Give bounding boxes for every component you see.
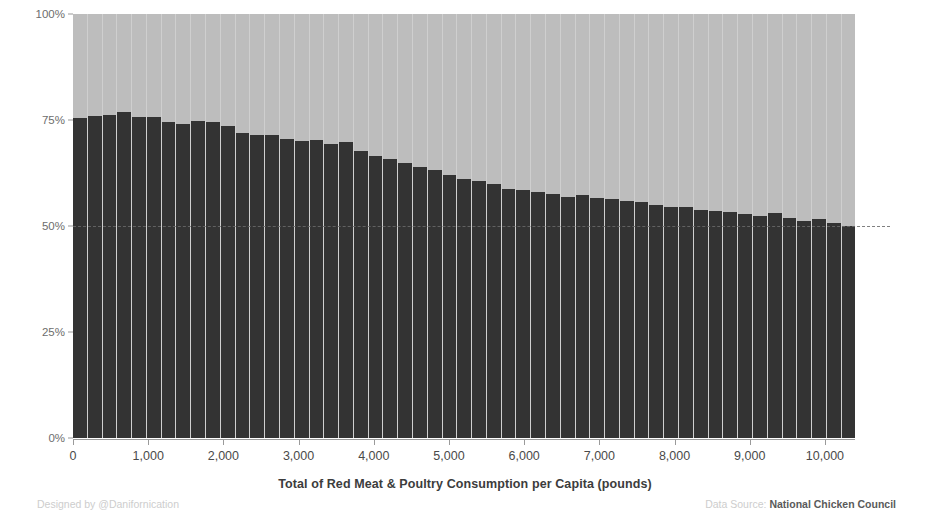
bar <box>162 122 176 438</box>
bar <box>797 221 811 438</box>
bar <box>605 199 619 438</box>
data-source-label: Data Source: <box>705 498 766 510</box>
bar <box>295 141 309 438</box>
bar <box>280 139 294 438</box>
x-axis-tick-label: 1,000 <box>133 449 164 463</box>
bar <box>709 211 723 438</box>
bar <box>191 121 205 438</box>
x-axis-tick-mark <box>223 439 224 445</box>
bar <box>649 205 663 438</box>
chart-container: 0%25%50%75%100% 01,0002,0003,0004,0005,0… <box>0 0 930 523</box>
y-axis: 0%25%50%75%100% <box>0 0 73 452</box>
bar <box>221 126 235 438</box>
x-axis-tick-mark <box>148 439 149 445</box>
x-axis-tick-label: 4,000 <box>358 449 389 463</box>
bar <box>546 194 560 438</box>
bar <box>664 207 678 439</box>
bar <box>487 184 501 438</box>
bar <box>753 216 767 438</box>
bar <box>383 159 397 438</box>
bar <box>531 192 545 438</box>
bar <box>132 117 146 438</box>
x-axis-line <box>73 439 855 440</box>
x-axis-tick-label: 2,000 <box>208 449 239 463</box>
bar <box>723 212 737 438</box>
bar <box>768 213 782 438</box>
x-axis-tick-mark <box>524 439 525 445</box>
bar <box>472 181 486 438</box>
data-source-name: National Chicken Council <box>769 498 896 510</box>
x-axis-title: Total of Red Meat & Poultry Consumption … <box>0 477 930 491</box>
bar <box>620 201 634 438</box>
bar <box>590 198 604 438</box>
bar <box>206 122 220 438</box>
bar <box>147 117 161 438</box>
bar <box>576 195 590 438</box>
bar <box>73 118 87 438</box>
bar <box>103 115 117 438</box>
bar <box>738 214 752 438</box>
bar <box>842 226 856 438</box>
bar <box>635 202 649 438</box>
y-axis-tick-label: 100% <box>36 8 65 20</box>
y-axis-tick-label: 25% <box>42 326 65 338</box>
bar <box>516 190 530 438</box>
x-axis-tick-label: 9,000 <box>734 449 765 463</box>
bar <box>694 210 708 438</box>
bar <box>339 142 353 438</box>
bar <box>812 219 826 438</box>
y-axis-tick-label: 50% <box>42 220 65 232</box>
bar <box>457 179 471 438</box>
x-axis-tick-label: 6,000 <box>509 449 540 463</box>
bar <box>413 167 427 438</box>
x-axis-tick-mark <box>599 439 600 445</box>
bar <box>236 133 250 438</box>
bar <box>265 135 279 438</box>
bar <box>398 163 412 438</box>
bar <box>561 197 575 438</box>
x-axis-tick-label: 7,000 <box>584 449 615 463</box>
y-axis-tick-label: 0% <box>48 432 65 444</box>
x-axis-tick-label: 8,000 <box>659 449 690 463</box>
bar <box>428 170 442 438</box>
bar <box>827 223 841 438</box>
x-axis-tick-label: 5,000 <box>433 449 464 463</box>
x-axis-tick-mark <box>374 439 375 445</box>
footer-data-source: Data Source: National Chicken Council <box>705 498 896 510</box>
bar <box>176 124 190 438</box>
x-axis-tick-mark <box>73 439 74 445</box>
x-axis-tick-mark <box>449 439 450 445</box>
x-axis-tick-mark <box>825 439 826 445</box>
footer-designed-by: Designed by @Danifornication <box>37 498 179 510</box>
x-axis-tick-label: 0 <box>70 449 77 463</box>
bar <box>310 140 324 438</box>
reference-line-50-percent <box>73 226 890 227</box>
bar <box>117 112 131 438</box>
bar <box>369 156 383 438</box>
bar <box>679 207 693 438</box>
x-axis-tick-label: 10,000 <box>806 449 844 463</box>
bar <box>88 116 102 438</box>
x-axis-tick-mark <box>750 439 751 445</box>
bar <box>324 144 338 438</box>
x-axis-tick-label: 3,000 <box>283 449 314 463</box>
y-axis-tick-label: 75% <box>42 114 65 126</box>
x-axis-tick-mark <box>675 439 676 445</box>
bar <box>783 218 797 438</box>
bar <box>250 135 264 438</box>
bar <box>443 175 457 438</box>
bar <box>354 151 368 438</box>
x-axis-tick-mark <box>299 439 300 445</box>
